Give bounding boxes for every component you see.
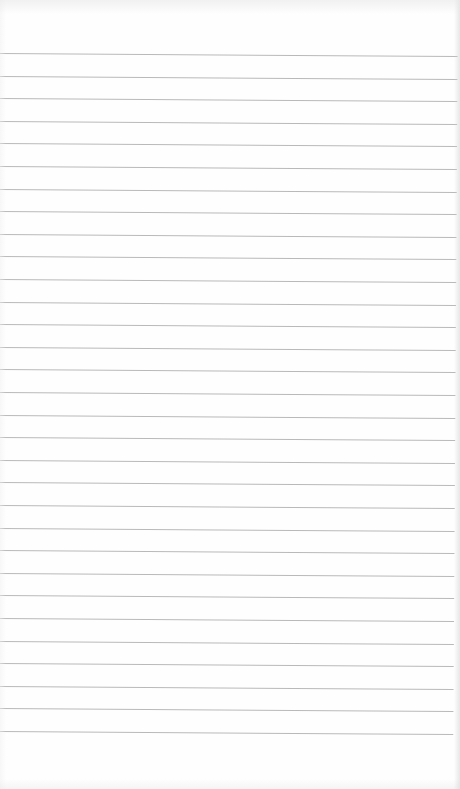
ruled-line	[0, 415, 455, 419]
ruled-line	[0, 121, 457, 125]
ruled-line	[0, 595, 454, 599]
ruled-line	[0, 460, 455, 464]
ruled-line	[0, 256, 456, 260]
ruled-line	[0, 166, 457, 170]
ruled-line	[0, 347, 456, 351]
ruled-line	[0, 482, 455, 486]
ruled-line	[0, 731, 453, 735]
ruled-lines	[0, 0, 460, 789]
ruled-line	[0, 234, 456, 238]
ruled-line	[0, 528, 455, 532]
ruled-line	[0, 550, 454, 554]
ruled-line	[0, 98, 457, 102]
lined-paper-sheet	[0, 0, 460, 789]
ruled-line	[0, 573, 454, 577]
ruled-line	[0, 686, 454, 690]
ruled-line	[0, 505, 455, 509]
ruled-line	[0, 708, 453, 712]
ruled-line	[0, 618, 454, 622]
ruled-line	[0, 143, 457, 147]
ruled-line	[0, 53, 458, 57]
ruled-line	[0, 369, 456, 373]
ruled-line	[0, 189, 457, 193]
ruled-line	[0, 76, 458, 80]
ruled-line	[0, 392, 455, 396]
ruled-line	[0, 437, 455, 441]
ruled-line	[0, 641, 454, 645]
ruled-line	[0, 279, 456, 283]
ruled-line	[0, 663, 454, 667]
ruled-line	[0, 324, 456, 328]
ruled-line	[0, 302, 456, 306]
ruled-line	[0, 211, 457, 215]
